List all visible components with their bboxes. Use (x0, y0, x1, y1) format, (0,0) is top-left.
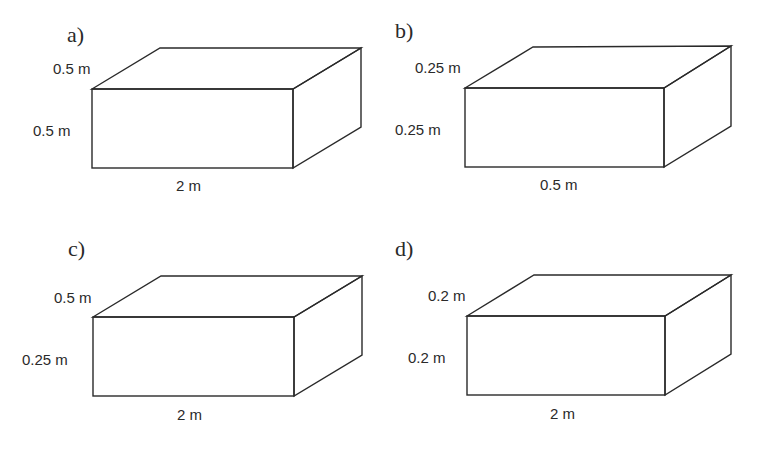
box-c-depth-label: 0.5 m (54, 289, 92, 306)
box-a: a) 0.5 m 0.5 m 2 m (33, 22, 361, 194)
box-a-side-face (293, 48, 361, 168)
box-c-label: c) (68, 236, 85, 261)
box-a-depth-label: 0.5 m (53, 60, 91, 77)
box-a-front-face (92, 89, 293, 168)
box-a-label: a) (67, 22, 84, 47)
box-c-length-label: 2 m (177, 406, 202, 423)
box-b-side-face (664, 46, 731, 167)
box-d-label: d) (395, 236, 413, 261)
box-c: c) 0.5 m 0.25 m 2 m (22, 236, 362, 423)
box-d: d) 0.2 m 0.2 m 2 m (395, 236, 731, 422)
box-d-depth-label: 0.2 m (428, 287, 466, 304)
box-b-length-label: 0.5 m (540, 176, 578, 193)
box-a-top-face (92, 48, 361, 89)
box-d-height-label: 0.2 m (408, 349, 446, 366)
cuboid-figure: a) 0.5 m 0.5 m 2 m b) 0.25 m 0.25 m 0.5 … (0, 0, 764, 454)
box-b-height-label: 0.25 m (395, 121, 441, 138)
box-a-length-label: 2 m (176, 177, 201, 194)
box-d-length-label: 2 m (550, 405, 575, 422)
box-c-front-face (93, 317, 294, 396)
box-c-top-face (93, 276, 362, 317)
box-d-side-face (665, 275, 731, 395)
box-c-side-face (294, 276, 362, 396)
box-a-height-label: 0.5 m (33, 122, 71, 139)
box-b-label: b) (395, 18, 413, 43)
box-b-depth-label: 0.25 m (415, 59, 461, 76)
box-d-front-face (467, 316, 665, 395)
box-c-height-label: 0.25 m (22, 351, 68, 368)
box-b: b) 0.25 m 0.25 m 0.5 m (395, 18, 731, 193)
box-b-top-face (465, 46, 731, 88)
box-b-front-face (465, 88, 664, 167)
box-d-top-face (467, 275, 731, 316)
